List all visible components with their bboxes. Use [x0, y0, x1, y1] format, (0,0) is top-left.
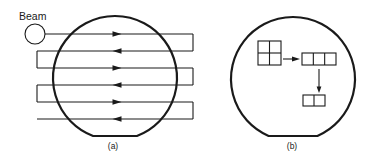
cell-frame [302, 53, 336, 65]
caption-b: (b) [287, 141, 298, 151]
beam-spot [25, 24, 45, 44]
panel-b: (b) [231, 17, 355, 151]
arrowhead-icon [113, 31, 122, 36]
arrowhead-icon [113, 48, 122, 53]
arrowhead-icon [113, 99, 122, 104]
grid-1x3 [302, 53, 336, 65]
grid-2x2 [258, 41, 281, 65]
arrowhead-icon [317, 87, 322, 93]
beam-label: Beam [19, 10, 47, 22]
arrowhead-icon [292, 57, 300, 62]
wafer-outline-b [231, 17, 355, 136]
arrowhead-icon [113, 82, 122, 87]
arrowhead-icon [113, 65, 122, 70]
figure: Beam (a) (b) [0, 0, 377, 157]
arrow-down-icon [317, 69, 322, 93]
arrowhead-icon [113, 116, 122, 121]
arrow-right-icon [283, 57, 300, 62]
grid-1x2 [303, 95, 325, 106]
caption-a: (a) [108, 141, 119, 151]
panel-a: Beam (a) [19, 10, 193, 151]
